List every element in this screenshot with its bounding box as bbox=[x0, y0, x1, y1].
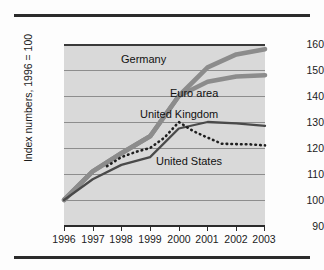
y-tick-label: 100 bbox=[268, 195, 324, 205]
x-tick-mark bbox=[64, 227, 65, 231]
top-rule bbox=[14, 14, 310, 17]
y-tick-label: 130 bbox=[268, 117, 324, 127]
y-tick-label: 160 bbox=[268, 39, 324, 49]
x-tick-label: 2003 bbox=[244, 233, 284, 245]
y-tick-label: 90 bbox=[268, 221, 324, 231]
series-lines bbox=[64, 44, 265, 226]
plot-area: Germany Euro area United Kingdom United … bbox=[64, 44, 265, 226]
y-tick-label: 140 bbox=[268, 91, 324, 101]
y-tick-label: 120 bbox=[268, 143, 324, 153]
series-label-euro-area: Euro area bbox=[170, 87, 218, 99]
x-tick-mark bbox=[93, 227, 94, 231]
series-label-united-states: United States bbox=[156, 155, 222, 167]
series-label-germany: Germany bbox=[121, 53, 166, 65]
series-line-euro-area bbox=[64, 75, 265, 200]
y-tick-label: 150 bbox=[268, 65, 324, 75]
y-axis-title: Index numbers, 1996 = 100 bbox=[22, 18, 34, 178]
x-axis-line bbox=[64, 225, 265, 227]
y-tick-label: 110 bbox=[268, 169, 324, 179]
x-tick-mark bbox=[207, 227, 208, 231]
x-tick-mark bbox=[150, 227, 151, 231]
x-tick-mark bbox=[121, 227, 122, 231]
x-tick-mark bbox=[236, 227, 237, 231]
series-label-united-kingdom: United Kingdom bbox=[140, 108, 218, 120]
x-tick-mark bbox=[264, 227, 265, 231]
bottom-rule bbox=[14, 256, 310, 259]
x-tick-mark bbox=[179, 227, 180, 231]
chart-figure: Index numbers, 1996 = 100 160 150 140 13… bbox=[0, 0, 324, 270]
